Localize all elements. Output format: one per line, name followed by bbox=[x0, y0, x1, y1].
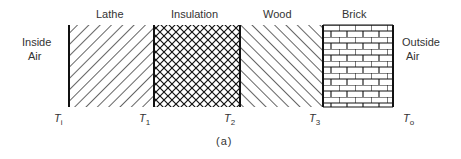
lathe-layer bbox=[69, 25, 154, 107]
inside-air-label: Inside Air bbox=[22, 35, 51, 63]
temp-label-ti: Ti bbox=[54, 112, 63, 127]
temp-label-t1: T1 bbox=[139, 112, 150, 127]
temp-label-t2: T2 bbox=[224, 112, 235, 127]
figure-caption: (a) bbox=[216, 135, 232, 147]
brick-layer bbox=[323, 25, 393, 107]
insulation-layer bbox=[154, 25, 240, 107]
outside-air-label: Outside Air bbox=[402, 35, 440, 63]
temp-label-to: To bbox=[403, 112, 414, 127]
layer-label-lathe: Lathe bbox=[96, 8, 124, 20]
temp-label-t3: T3 bbox=[309, 112, 320, 127]
layer-label-brick: Brick bbox=[342, 8, 366, 20]
wood-layer bbox=[240, 25, 323, 107]
layer-label-wood: Wood bbox=[263, 8, 292, 20]
layer-label-insulation: Insulation bbox=[171, 8, 218, 20]
